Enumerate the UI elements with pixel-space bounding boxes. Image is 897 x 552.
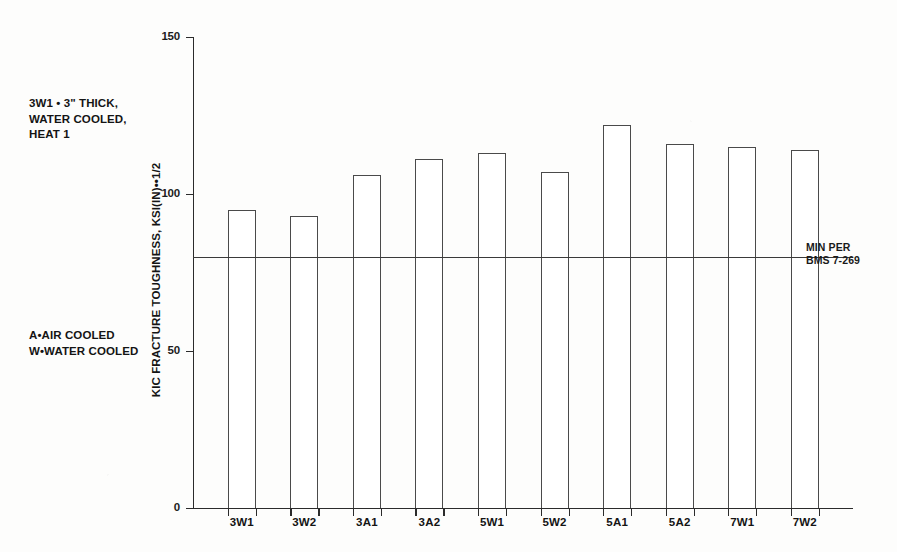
y-axis-title-text: KIC FRACTURE TOUGHNESS, KSI(IN)••1/2 [150, 163, 162, 397]
bar-chart-plot: 050100150 KIC FRACTURE TOUGHNESS, KSI(IN… [0, 0, 897, 552]
x-axis-category-label: 7W2 [775, 516, 835, 528]
y-axis-title: KIC FRACTURE TOUGHNESS, KSI(IN)••1/2 [146, 150, 166, 410]
min-spec-label-line1: MIN PER [806, 241, 860, 254]
x-axis-category-label: 5W1 [462, 516, 522, 528]
x-axis-tick-mark [256, 509, 257, 516]
x-axis-tick-mark [290, 509, 291, 516]
x-axis-tick-mark [569, 509, 570, 516]
x-axis-tick-mark [318, 509, 319, 516]
y-axis-tick-mark [186, 508, 194, 509]
x-axis-tick-mark [541, 509, 542, 516]
min-spec-label-line2: BMS 7-269 [806, 254, 860, 267]
y-axis-tick-mark [186, 37, 194, 38]
x-axis-tick-mark [666, 509, 667, 516]
x-axis-tick-mark [228, 509, 229, 516]
y-axis-line [193, 37, 194, 509]
chart-page: 050100150 KIC FRACTURE TOUGHNESS, KSI(IN… [0, 0, 897, 552]
x-axis-tick-mark [478, 509, 479, 516]
cooling-key-note: A•AIR COOLED W•WATER COOLED [29, 328, 138, 359]
x-axis-category-label: 3A1 [337, 516, 397, 528]
x-axis-tick-mark [631, 509, 632, 516]
x-axis-tick-mark [756, 509, 757, 516]
bar [666, 144, 694, 508]
x-axis-tick-mark [415, 509, 416, 516]
legend-key-note: 3W1 • 3" THICK, WATER COOLED, HEAT 1 [29, 96, 127, 143]
x-axis-category-label: 5W2 [525, 516, 585, 528]
min-spec-line-label: MIN PER BMS 7-269 [806, 241, 860, 267]
bar [228, 210, 256, 508]
bar [728, 147, 756, 508]
x-axis-tick-mark [443, 509, 444, 516]
min-spec-line [193, 257, 853, 259]
x-axis-tick-mark [506, 509, 507, 516]
x-axis-tick-mark [694, 509, 695, 516]
x-axis-category-label: 7W1 [712, 516, 772, 528]
bar [415, 159, 443, 508]
x-axis-tick-mark [791, 509, 792, 516]
y-axis-tick-mark [186, 194, 194, 195]
y-axis-tick-label: 0 [146, 501, 180, 513]
x-axis-category-label: 3W1 [212, 516, 272, 528]
bar [478, 153, 506, 508]
bar [603, 125, 631, 508]
x-axis-category-label: 5A2 [650, 516, 710, 528]
x-axis-tick-mark [728, 509, 729, 516]
x-axis-line [193, 508, 853, 509]
bar [541, 172, 569, 508]
x-axis-tick-mark [381, 509, 382, 516]
y-axis-tick-label: 150 [146, 30, 180, 42]
bar [353, 175, 381, 508]
x-axis-category-label: 3W2 [274, 516, 334, 528]
bar [290, 216, 318, 508]
x-axis-tick-mark [819, 509, 820, 516]
x-axis-category-label: 5A1 [587, 516, 647, 528]
bar [791, 150, 819, 508]
y-axis-tick-mark [186, 351, 194, 352]
x-axis-tick-mark [603, 509, 604, 516]
x-axis-tick-mark [353, 509, 354, 516]
x-axis-category-label: 3A2 [399, 516, 459, 528]
